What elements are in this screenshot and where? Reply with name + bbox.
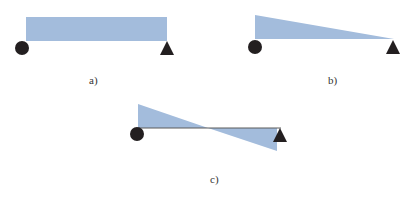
panel-b xyxy=(248,15,400,54)
pin-support-left-icon xyxy=(130,127,144,141)
roller-support-right-icon xyxy=(160,41,174,55)
pin-support-left-icon xyxy=(15,41,29,55)
panel-label-b: b) xyxy=(328,75,337,86)
negative-load-area xyxy=(208,128,277,151)
beam-load-diagrams xyxy=(0,0,419,197)
panel-label-a: a) xyxy=(89,75,98,86)
panel-label-c: c) xyxy=(210,174,219,185)
roller-support-right-icon xyxy=(386,40,400,54)
triangular-load-area xyxy=(255,15,394,39)
positive-load-area xyxy=(138,104,208,128)
pin-support-left-icon xyxy=(248,40,262,54)
panel-a xyxy=(15,17,174,55)
uniform-load-area xyxy=(26,17,167,41)
panel-c xyxy=(130,104,287,151)
